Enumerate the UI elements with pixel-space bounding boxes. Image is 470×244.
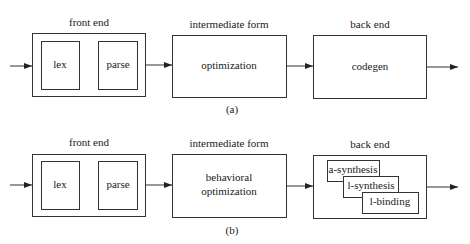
caption-b: (b) [226,225,239,236]
l-binding-label: l-binding [370,195,410,209]
lex-label: lex [53,178,66,192]
parse-label: parse [106,178,129,192]
a-synthesis-label: a-synthesis [329,163,378,177]
optimization-line: optimization [201,185,257,199]
stage-label-front-end: front end [69,17,109,28]
caption-a: (a) [226,104,238,115]
optimization-label: optimization [201,59,257,73]
stage-label-back-end: back end [350,19,389,30]
stage-label-front-end: front end [69,137,109,148]
parse-label: parse [106,58,129,72]
l-synthesis-label: l-synthesis [347,179,394,193]
behavioral-optimization-label: behavioral optimization [201,171,257,199]
stage-label-intermediate: intermediate form [189,19,268,30]
lex-label: lex [53,58,66,72]
stage-label-intermediate: intermediate form [189,138,268,149]
codegen-label: codegen [352,60,389,74]
stage-label-back-end: back end [350,139,389,150]
behavioral-line: behavioral [201,171,257,185]
